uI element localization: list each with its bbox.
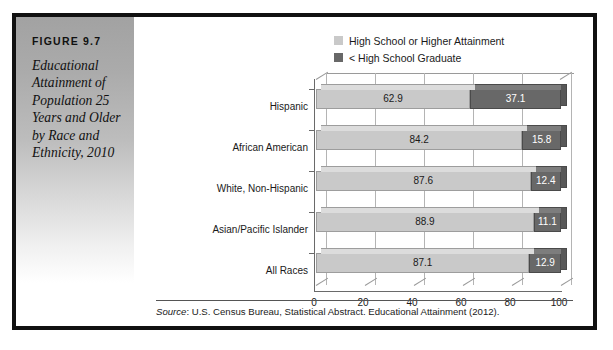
figure-number: FIGURE 9.7: [32, 35, 101, 47]
figure-container: FIGURE 9.7 Educational Attainment of Pop…: [0, 0, 613, 350]
bar-value-label: 84.2: [316, 130, 522, 150]
legend-swatch-light: [334, 36, 343, 45]
xtick-label-100: 100: [547, 297, 571, 308]
legend-label-dark: < High School Graduate: [349, 52, 461, 64]
y-axis-line: [314, 79, 315, 292]
chart-walls: 62.937.1 84.215.8 87.612.4 88.911.1 87.1…: [312, 65, 597, 280]
category-label-white-non-hispanic: White, Non-Hispanic: [217, 183, 308, 194]
wall-back-top: [326, 73, 574, 74]
category-label-african-american: African American: [232, 142, 308, 153]
caption-panel: FIGURE 9.7 Educational Attainment of Pop…: [16, 17, 134, 326]
legend-label-light: High School or Higher Attainment: [349, 35, 504, 47]
source-note: Source: U.S. Census Bureau, Statistical …: [156, 306, 499, 317]
chart-legend: High School or Higher Attainment < High …: [334, 33, 504, 67]
source-divider: [156, 300, 573, 301]
bar-value-label: 12.4: [531, 171, 561, 191]
category-label-all-races: All Races: [266, 265, 308, 276]
bar-value-label: 12.9: [529, 253, 561, 273]
bar-side-face: [561, 248, 567, 270]
bar-value-label: 87.6: [316, 171, 531, 191]
gridline-100: [571, 73, 572, 285]
figure-title: Educational Attainment of Population 25 …: [32, 57, 130, 161]
plot-area: Hispanic African American White, Non-His…: [134, 65, 601, 305]
bar-side-face: [561, 166, 567, 188]
category-label-hispanic: Hispanic: [270, 101, 308, 112]
category-label-asian-pacific-islander: Asian/Pacific Islander: [212, 224, 308, 235]
bar-row-all-races[interactable]: 87.112.9: [316, 253, 561, 273]
category-axis-labels: Hispanic African American White, Non-His…: [134, 65, 308, 280]
legend-item-less-than-high-school[interactable]: < High School Graduate: [334, 50, 504, 65]
bar-side-face: [561, 125, 567, 147]
bar-row-white-non-hispanic[interactable]: 87.612.4: [316, 171, 561, 191]
xtick-label-80: 80: [498, 297, 522, 308]
source-keyword: Source: [156, 306, 186, 317]
bar-value-label: 87.1: [316, 253, 529, 273]
bar-row-asian-pacific-islander[interactable]: 88.911.1: [316, 212, 561, 232]
x-axis-line: [314, 291, 562, 292]
bar-value-label: 15.8: [522, 130, 561, 150]
source-text: : U.S. Census Bureau, Statistical Abstra…: [186, 306, 499, 317]
bar-value-label: 62.9: [316, 89, 470, 109]
bar-side-face: [561, 207, 567, 229]
bar-side-face: [561, 84, 567, 106]
legend-item-high-school-or-higher[interactable]: High School or Higher Attainment: [334, 33, 504, 48]
bar-row-african-american[interactable]: 84.215.8: [316, 130, 561, 150]
legend-swatch-dark: [334, 53, 343, 62]
chart-area: High School or Higher Attainment < High …: [134, 17, 593, 326]
bar-value-label: 37.1: [470, 89, 561, 109]
bar-value-label: 88.9: [316, 212, 534, 232]
figure-frame: FIGURE 9.7 Educational Attainment of Pop…: [12, 13, 597, 330]
bar-value-label: 11.1: [534, 212, 561, 232]
bar-row-hispanic[interactable]: 62.937.1: [316, 89, 561, 109]
